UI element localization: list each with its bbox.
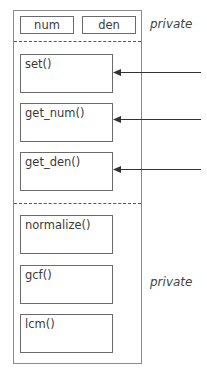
method-lcm: lcm()	[20, 314, 113, 353]
field-num: num	[20, 16, 74, 34]
private-methods-label: private	[150, 275, 192, 289]
arrow-get-num-icon	[113, 115, 201, 124]
method-normalize: normalize()	[20, 215, 113, 254]
method-set: set()	[20, 54, 113, 93]
arrow-get-den-icon	[113, 165, 201, 174]
section-divider-private	[14, 203, 141, 204]
field-den: den	[82, 16, 136, 34]
method-gcf: gcf()	[20, 265, 113, 304]
section-divider-data	[14, 41, 141, 42]
arrow-set-icon	[113, 68, 201, 77]
method-get-den: get_den()	[20, 152, 113, 191]
private-data-label: private	[150, 17, 192, 31]
method-get-num: get_num()	[20, 103, 113, 142]
